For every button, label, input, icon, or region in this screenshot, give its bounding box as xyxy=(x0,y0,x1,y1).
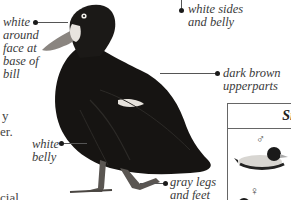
body-text-fragment: cial xyxy=(0,190,19,200)
leader-line-belly xyxy=(63,143,87,144)
label-belly-line: belly xyxy=(32,151,59,164)
body-text-fragment: er. xyxy=(0,124,13,140)
dot-belly xyxy=(59,141,64,146)
label-upperparts: dark brown upperparts xyxy=(223,67,281,93)
male-scaup-illustration xyxy=(232,144,291,174)
leader-line-legs xyxy=(140,183,164,184)
similar-species-panel: Si ♂ ♀ xyxy=(227,103,291,200)
panel-title: Si xyxy=(282,108,291,124)
dot-legs xyxy=(163,181,168,186)
label-sides: white sides and belly xyxy=(188,3,243,29)
dot-sides xyxy=(179,8,184,13)
female-scaup-illustration xyxy=(230,194,260,200)
leader-line-sides xyxy=(181,0,182,8)
body-text-fragment: y xyxy=(2,108,9,124)
dot-upperparts xyxy=(215,71,220,76)
leader-line-upperparts xyxy=(160,73,216,74)
label-face-line: bill xyxy=(3,68,39,81)
label-belly: white belly xyxy=(32,138,59,164)
label-sides-line: and belly xyxy=(188,16,243,29)
label-legs: gray legs and feet xyxy=(170,176,216,200)
label-legs-line: and feet xyxy=(170,189,216,200)
panel-header: Si xyxy=(228,104,291,129)
leader-line-face xyxy=(38,22,68,23)
label-upperparts-line: upperparts xyxy=(223,80,281,93)
label-face: white around face at base of bill xyxy=(3,16,39,81)
